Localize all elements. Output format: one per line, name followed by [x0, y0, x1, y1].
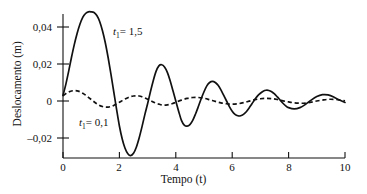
x-tick-label-10: 10 [335, 162, 355, 173]
x-tick-label-2: 2 [109, 162, 129, 173]
x-tick-label-8: 8 [279, 162, 299, 173]
series-label-solid: t1= 1,5 [113, 26, 143, 40]
x-tick-label-0: 0 [53, 162, 73, 173]
series-label-solid-value: = 1,5 [120, 25, 143, 37]
y-axis-title: Deslocamento (m) [12, 19, 24, 149]
series-label-dashed-value: = 0,1 [86, 116, 109, 128]
x-tick-label-4: 4 [166, 162, 186, 173]
x-axis-title: Tempo (t) [0, 174, 367, 186]
axes-group [63, 14, 345, 158]
damped-oscillation-figure: 0,04 0,02 0 –0,02 0 2 4 6 8 10 Tempo (t)… [0, 0, 367, 194]
series-label-dashed: t1= 0,1 [79, 117, 109, 131]
x-tick-marks [63, 152, 345, 158]
series-line-solid [63, 12, 345, 156]
x-tick-label-6: 6 [222, 162, 242, 173]
